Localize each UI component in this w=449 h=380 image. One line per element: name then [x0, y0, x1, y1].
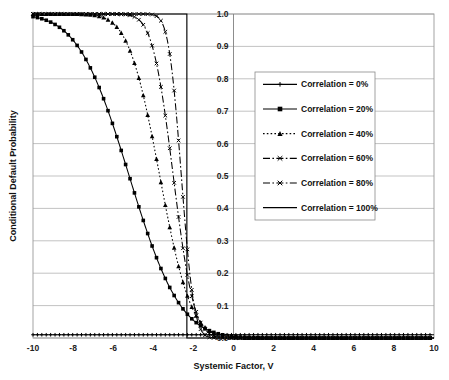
series-marker: [177, 301, 181, 305]
x-tick-label: -10: [27, 343, 40, 353]
series-marker: [164, 277, 168, 281]
chart-legend: Correlation = 0%Correlation = 20%Correla…: [255, 72, 378, 220]
series-marker: [119, 149, 123, 153]
series-marker: [36, 16, 40, 20]
series-marker: [106, 109, 110, 113]
series-marker: [75, 44, 79, 48]
series-marker: [40, 17, 44, 21]
chart-background: [0, 0, 449, 380]
x-tick-label: -8: [69, 343, 77, 353]
series-marker: [53, 23, 57, 27]
x-tick-label: 10: [429, 343, 439, 353]
y-tick-label: 0.0: [217, 333, 229, 343]
legend-label: Correlation = 0%: [301, 79, 369, 89]
y-tick-label: 0.6: [217, 139, 229, 149]
series-marker: [181, 307, 185, 311]
y-tick-label: 0.1: [217, 301, 229, 311]
series-marker: [93, 75, 97, 79]
y-tick-label: 0.3: [217, 236, 229, 246]
series-marker: [111, 122, 115, 126]
series-marker: [97, 86, 101, 90]
series-marker: [150, 244, 154, 248]
x-tick-label: 4: [311, 343, 316, 353]
series-marker: [128, 177, 132, 181]
conditional-default-probability-chart: -10-8-6-4-20246810 0.00.10.20.30.40.50.6…: [0, 0, 449, 380]
y-axis-title: Conditional Default Probability: [8, 110, 18, 242]
series-marker: [155, 256, 159, 260]
y-tick-label: 0.2: [217, 268, 229, 278]
series-marker: [159, 267, 163, 271]
series-marker: [84, 58, 88, 62]
y-tick-label: 0.8: [217, 74, 229, 84]
series-marker: [172, 294, 176, 298]
series-marker: [62, 29, 66, 33]
x-tick-label: -6: [109, 343, 117, 353]
legend-label: Correlation = 40%: [301, 129, 373, 139]
series-marker: [168, 286, 172, 290]
y-tick-label: 0.9: [217, 41, 229, 51]
x-tick-label: -4: [150, 343, 158, 353]
series-marker: [66, 33, 70, 37]
series-marker: [115, 135, 119, 139]
x-tick-label: 0: [231, 343, 236, 353]
y-tick-label: 0.7: [217, 106, 229, 116]
legend-label: Correlation = 60%: [301, 153, 373, 163]
y-tick-label: 0.4: [217, 203, 229, 213]
series-marker: [89, 66, 93, 70]
series-marker: [124, 163, 128, 167]
series-marker: [71, 38, 75, 42]
series-marker: [278, 107, 283, 112]
chart-container: -10-8-6-4-20246810 0.00.10.20.30.40.50.6…: [0, 0, 449, 380]
legend-label: Correlation = 100%: [301, 203, 378, 213]
x-tick-label: 6: [351, 343, 356, 353]
series-marker: [141, 219, 145, 223]
x-tick-label: 2: [271, 343, 276, 353]
legend-box: [255, 72, 375, 220]
x-tick-label: -2: [190, 343, 198, 353]
series-marker: [102, 97, 106, 101]
series-marker: [133, 191, 137, 195]
series-marker: [137, 205, 141, 209]
legend-label: Correlation = 80%: [301, 178, 373, 188]
x-axis-title: Systemic Factor, V: [193, 361, 273, 371]
series-marker: [44, 18, 48, 22]
series-marker: [80, 50, 84, 54]
y-tick-label: 1.0: [217, 9, 229, 19]
series-marker: [49, 20, 53, 24]
legend-label: Correlation = 20%: [301, 104, 373, 114]
series-marker: [146, 232, 150, 236]
y-tick-label: 0.5: [217, 171, 229, 181]
series-marker: [190, 317, 194, 321]
x-tick-label: 8: [392, 343, 397, 353]
series-marker: [58, 25, 62, 29]
